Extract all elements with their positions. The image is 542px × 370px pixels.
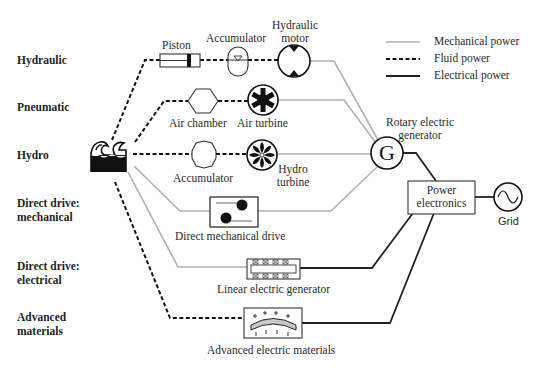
accumulator-hydro-label: Accumulator: [173, 172, 233, 185]
grid-ac-source-icon: [494, 183, 522, 211]
hydro-turbine-label-line1: Hydro: [273, 163, 313, 176]
wave-energy-conversion-diagram: Hydraulic Pneumatic Hydro Direct drive: …: [0, 0, 542, 370]
category-direct-mechanical-line1: Direct drive:: [17, 196, 80, 210]
air-turbine-icon: [248, 85, 278, 115]
legend-mechanical-power: Mechanical power: [434, 35, 519, 48]
power-electronics-label-line2: electronics: [408, 197, 475, 210]
direct-mechanical-drive-icon: [210, 197, 258, 227]
power-electronics-label-line1: Power: [408, 184, 475, 197]
grid-label: Grid: [498, 215, 519, 228]
power-electronics-label: Power electronics: [408, 184, 475, 210]
direct-mechanical-drive-label: Direct mechanical drive: [175, 230, 285, 243]
hydraulic-motor-label-line2: motor: [270, 32, 320, 45]
accumulator-hydro-icon: [192, 141, 216, 168]
category-direct-electrical-line1: Direct drive:: [17, 259, 80, 273]
air-chamber-label: Air chamber: [169, 117, 227, 130]
wave-source-icon: [91, 142, 126, 172]
generator-symbol: G: [373, 140, 401, 166]
accumulator-hydraulic-icon: [228, 47, 248, 76]
legend-lines: [386, 42, 420, 76]
hydraulic-motor-icon: [278, 45, 310, 77]
category-direct-mechanical-line2: mechanical: [17, 210, 80, 224]
category-hydro: Hydro: [17, 148, 49, 162]
category-direct-electrical: Direct drive: electrical: [17, 259, 80, 287]
category-direct-electrical-line2: electrical: [17, 273, 80, 287]
category-advanced-materials: Advanced materials: [17, 310, 66, 338]
piston-icon: [160, 54, 200, 67]
air-turbine-label: Air turbine: [237, 117, 288, 130]
rotary-generator-label: Rotary electric generator: [380, 116, 460, 142]
electrical-power-lines: [300, 153, 494, 323]
air-chamber-icon: [188, 89, 218, 113]
advanced-electric-materials-label: Advanced electric materials: [207, 344, 335, 357]
category-direct-mechanical: Direct drive: mechanical: [17, 196, 80, 224]
legend-electrical-power: Electrical power: [434, 69, 510, 82]
linear-electric-generator-icon: [247, 259, 300, 279]
category-pneumatic: Pneumatic: [17, 100, 69, 114]
accumulator-hydraulic-label: Accumulator: [206, 32, 266, 45]
hydraulic-motor-label: Hydraulic motor: [270, 19, 320, 45]
legend-fluid-power: Fluid power: [434, 52, 490, 65]
hydro-turbine-label-line2: turbine: [273, 176, 313, 189]
linear-electric-generator-label: Linear electric generator: [217, 283, 330, 296]
piston-label: Piston: [162, 39, 191, 52]
category-advanced-materials-line2: materials: [17, 324, 66, 338]
category-advanced-materials-line1: Advanced: [17, 310, 66, 324]
category-hydraulic: Hydraulic: [17, 53, 67, 67]
hydro-turbine-label: Hydro turbine: [273, 163, 313, 189]
hydraulic-motor-label-line1: Hydraulic: [270, 19, 320, 32]
rotary-generator-label-line1: Rotary electric: [380, 116, 460, 129]
advanced-electric-materials-icon: [244, 308, 302, 338]
